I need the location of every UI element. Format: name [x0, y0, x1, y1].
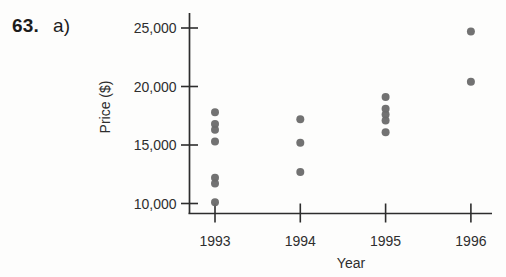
data-point: [382, 93, 390, 101]
x-tick-label: 1996: [455, 233, 486, 249]
data-point: [211, 198, 219, 206]
x-tick-label: 1994: [285, 233, 316, 249]
data-point: [211, 180, 219, 188]
data-point: [296, 115, 304, 123]
data-point: [296, 168, 304, 176]
data-point: [382, 116, 390, 124]
data-point: [211, 126, 219, 134]
data-point: [467, 28, 475, 36]
data-point: [382, 128, 390, 136]
data-point: [467, 78, 475, 86]
y-axis-title: Price ($): [97, 81, 113, 134]
y-tick-label: 20,000: [134, 79, 177, 95]
scatter-plot: 25,00020,00015,00010,0001993199419951996…: [0, 0, 506, 277]
x-axis-title: Year: [337, 255, 366, 271]
data-point: [211, 137, 219, 145]
textbook-figure: 63.a) 25,00020,00015,00010,0001993199419…: [0, 0, 506, 277]
y-tick-label: 10,000: [134, 196, 177, 212]
y-tick-label: 25,000: [134, 20, 177, 36]
data-point: [296, 139, 304, 147]
x-tick-label: 1993: [199, 233, 230, 249]
y-tick-label: 15,000: [134, 137, 177, 153]
x-tick-label: 1995: [370, 233, 401, 249]
data-point: [211, 108, 219, 116]
